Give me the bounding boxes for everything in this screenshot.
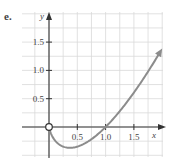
x-tick-label: 1.0 (100, 132, 112, 142)
grid (22, 12, 163, 157)
x-axis-label: x (151, 130, 156, 140)
chart: 0.51.01.50.51.01.5 e. y x (0, 0, 172, 165)
y-tick-label: 1.5 (33, 37, 45, 47)
y-axis-label: y (39, 11, 44, 21)
panel-label: e. (4, 10, 12, 22)
x-tick-label: 1.5 (128, 132, 140, 142)
open-point-origin (46, 124, 53, 131)
y-tick-label: 0.5 (33, 94, 45, 104)
y-axis-arrow-icon (46, 12, 52, 20)
y-tick-label: 1.0 (33, 65, 45, 75)
x-tick-label: 0.5 (72, 132, 84, 142)
